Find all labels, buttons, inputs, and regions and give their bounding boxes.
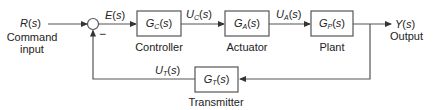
feedback-minus-sign: − <box>99 28 106 40</box>
input-label-line2: input <box>2 43 62 55</box>
diagram-canvas <box>0 0 434 110</box>
transmitter-label: Transmitter <box>181 96 251 108</box>
output-label: Output <box>390 30 423 42</box>
transmitter-transfer-function: GT(s) <box>195 73 238 89</box>
error-signal-label: E(s) <box>105 9 125 21</box>
controller-transfer-function: GC(s) <box>137 17 181 33</box>
output-signal-label: Y(s) <box>395 18 415 30</box>
summing-junction <box>88 19 99 30</box>
plant-label: Plant <box>302 41 362 53</box>
actuator-transfer-function: GA(s) <box>225 17 269 33</box>
input-label-line1: Command <box>2 31 62 43</box>
actuator-label: Actuator <box>217 41 277 53</box>
plant-transfer-function: GP(s) <box>311 17 353 33</box>
input-signal-label: R(s) <box>20 17 41 29</box>
controller-output-label: UC(s) <box>186 8 212 24</box>
transmitter-output-label: UT(s) <box>155 64 180 80</box>
actuator-output-label: UA(s) <box>276 8 301 24</box>
controller-label: Controller <box>129 41 189 53</box>
